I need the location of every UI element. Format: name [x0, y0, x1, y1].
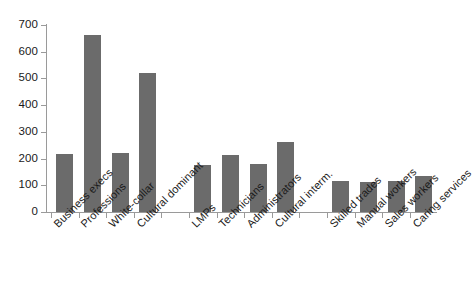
- y-axis-tick-label: 200: [0, 153, 38, 165]
- x-axis-tick: [189, 213, 190, 218]
- x-axis-tick: [299, 213, 300, 218]
- x-axis-tick: [244, 213, 245, 218]
- y-axis-tick-label: 100: [0, 179, 38, 191]
- y-axis-tick-label: 600: [0, 46, 38, 58]
- x-axis-tick: [272, 213, 273, 218]
- x-axis-tick: [106, 213, 107, 218]
- y-axis-tick-label: 400: [0, 99, 38, 111]
- x-axis-tick: [382, 213, 383, 218]
- y-axis-tick-label: 0: [0, 206, 38, 218]
- x-axis-tick: [51, 213, 52, 218]
- x-axis-tick: [79, 213, 80, 218]
- y-axis-tick-label: 500: [0, 72, 38, 84]
- x-axis-tick: [134, 213, 135, 218]
- x-axis-tick: [355, 213, 356, 218]
- x-axis-tick: [161, 213, 162, 218]
- y-axis-tick-label: 700: [0, 19, 38, 31]
- x-axis-tick: [410, 213, 411, 218]
- y-axis-tick: [41, 212, 47, 213]
- x-axis-tick: [217, 213, 218, 218]
- y-axis-tick-label: 300: [0, 126, 38, 138]
- x-axis-tick: [327, 213, 328, 218]
